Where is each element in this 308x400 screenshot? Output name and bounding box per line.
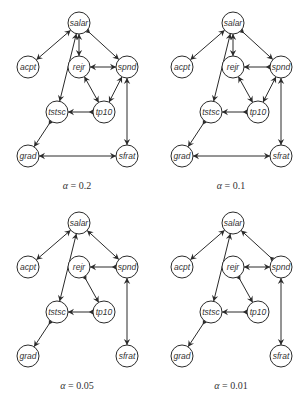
node-tstsc: tstsc <box>200 101 222 123</box>
alpha-symbol: α <box>217 180 222 191</box>
node-salar: salar <box>222 12 244 34</box>
arrow-tail-icon <box>266 65 270 70</box>
node-sfrat: sfrat <box>116 145 138 167</box>
alpha-value: = 0.2 <box>71 180 92 191</box>
node-spnd: spnd <box>270 256 292 278</box>
alpha-symbol: α <box>214 380 219 391</box>
graph-alpha-0-01: salaracptrejrspndtstsctp10gradsfrat <box>154 200 308 400</box>
edge-salar-acpt <box>36 30 70 60</box>
node-label: spnd <box>272 62 291 72</box>
edge-rejr-tp10 <box>84 277 98 303</box>
node-label: rejr <box>73 262 86 272</box>
node-label: salar <box>70 218 90 228</box>
alpha-value: = 0.1 <box>225 180 246 191</box>
alpha-symbol: α <box>60 380 65 391</box>
node-label: tstsc <box>202 107 220 117</box>
node-label: grad <box>19 351 36 361</box>
node-grad: grad <box>171 345 193 367</box>
node-tp10: tp10 <box>93 301 115 323</box>
node-label: tp10 <box>96 307 113 317</box>
arrowhead-icon <box>188 140 194 147</box>
node-grad: grad <box>171 145 193 167</box>
node-label: tp10 <box>96 107 113 117</box>
edge-tstsc-grad <box>34 321 51 347</box>
node-label: acpt <box>174 62 191 72</box>
panel-alpha-0-05: salaracptrejrspndtstsctp10gradsfrat α = … <box>0 200 154 400</box>
node-salar: salar <box>68 12 90 34</box>
node-rejr: rejr <box>222 56 244 78</box>
edge-rejr-tp10 <box>84 77 98 103</box>
arrowhead-icon <box>34 140 40 147</box>
edge-rejr-tp10 <box>238 277 252 303</box>
arrow-tail-icon <box>89 310 93 315</box>
panel-alpha-0-01: salaracptrejrspndtstsctp10gradsfrat α = … <box>154 200 308 400</box>
node-label: tstsc <box>202 307 220 317</box>
node-tp10: tp10 <box>247 301 269 323</box>
node-tstsc: tstsc <box>46 101 68 123</box>
edge-salar-acpt <box>190 30 224 60</box>
node-salar: salar <box>68 212 90 234</box>
edge-spnd-tp10 <box>109 77 122 102</box>
panel-alpha-0-1: salaracptrejrspndtstsctp10gradsfrat α = … <box>154 0 308 200</box>
node-label: acpt <box>174 262 191 272</box>
node-spnd: spnd <box>270 56 292 78</box>
node-grad: grad <box>17 345 39 367</box>
node-label: rejr <box>73 62 86 72</box>
node-grad: grad <box>17 145 39 167</box>
caption-alpha-0-01: α = 0.01 <box>154 380 308 391</box>
panel-alpha-0-2: salaracptrejrspndtstsctp10gradsfrat α = … <box>0 0 154 200</box>
arrowhead-icon <box>34 340 40 347</box>
edge-tstsc-grad <box>188 321 205 347</box>
node-label: salar <box>224 218 244 228</box>
edge-salar-acpt <box>190 230 224 260</box>
node-label: grad <box>19 151 36 161</box>
node-label: tp10 <box>250 107 267 117</box>
alpha-value: = 0.05 <box>68 380 94 391</box>
graph-alpha-0-1: salaracptrejrspndtstsctp10gradsfrat <box>154 0 308 200</box>
node-label: salar <box>70 18 90 28</box>
alpha-value: = 0.01 <box>222 380 248 391</box>
edge-salar-spnd <box>241 30 273 59</box>
edge-rejr-tp10 <box>238 77 252 103</box>
edge-salar-spnd <box>87 230 119 259</box>
edge-tstsc-grad <box>34 121 51 147</box>
alpha-symbol: α <box>63 180 68 191</box>
node-tstsc: tstsc <box>46 301 68 323</box>
node-label: grad <box>173 151 190 161</box>
node-acpt: acpt <box>17 56 39 78</box>
edge-spnd-salar <box>241 230 273 259</box>
node-salar: salar <box>222 212 244 234</box>
arrow-tail-icon <box>243 110 247 115</box>
node-label: sfrat <box>273 351 290 361</box>
node-tp10: tp10 <box>247 101 269 123</box>
graph-alpha-0-2: salaracptrejrspndtstsctp10gradsfrat <box>0 0 154 200</box>
edge-tstsc-grad <box>188 121 205 147</box>
node-label: spnd <box>118 62 137 72</box>
arrowhead-icon <box>188 340 194 347</box>
node-label: salar <box>224 18 244 28</box>
node-label: spnd <box>272 262 291 272</box>
node-spnd: spnd <box>116 56 138 78</box>
caption-alpha-0-05: α = 0.05 <box>0 380 154 391</box>
node-label: rejr <box>227 262 240 272</box>
edge-salar-spnd <box>87 30 119 59</box>
node-label: tp10 <box>250 307 267 317</box>
node-label: sfrat <box>119 151 136 161</box>
node-tstsc: tstsc <box>200 301 222 323</box>
node-label: acpt <box>20 262 37 272</box>
node-label: grad <box>173 351 190 361</box>
node-acpt: acpt <box>171 56 193 78</box>
node-sfrat: sfrat <box>116 345 138 367</box>
node-tp10: tp10 <box>93 101 115 123</box>
node-label: sfrat <box>119 351 136 361</box>
caption-alpha-0-2: α = 0.2 <box>0 180 154 191</box>
node-rejr: rejr <box>222 256 244 278</box>
arrow-tail-icon <box>89 110 93 115</box>
node-sfrat: sfrat <box>270 145 292 167</box>
node-label: tstsc <box>48 307 66 317</box>
caption-alpha-0-1: α = 0.1 <box>154 180 308 191</box>
node-rejr: rejr <box>68 256 90 278</box>
node-acpt: acpt <box>17 256 39 278</box>
edge-salar-acpt <box>36 230 70 260</box>
node-label: sfrat <box>273 151 290 161</box>
